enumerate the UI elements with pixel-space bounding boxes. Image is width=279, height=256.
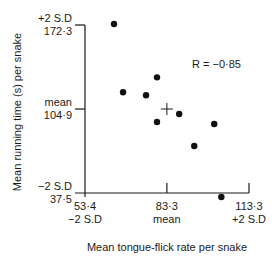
data-point: [218, 194, 224, 200]
y-tick-label: 172·3: [44, 25, 72, 37]
data-point: [154, 119, 160, 125]
data-point: [120, 89, 126, 95]
x-tick-label: 83·3: [156, 200, 178, 212]
x-tick-label: 113·3: [235, 200, 262, 212]
y-tick-sublabel: +2 S.D: [38, 12, 72, 24]
x-axis-title: Mean tongue-flick rate per snake: [87, 241, 247, 253]
y-tick-label: 37·5: [50, 193, 72, 205]
x-tick-sublabel: mean: [153, 213, 181, 225]
data-point: [191, 143, 197, 149]
y-tick-sublabel: mean: [44, 96, 72, 108]
y-axis-title: Mean running time (s) per snake: [11, 33, 23, 191]
x-tick-sublabel: +2 S.D: [232, 213, 266, 225]
data-point: [211, 121, 217, 127]
x-tick-label: 53·4: [74, 200, 96, 212]
correlation-annotation: R = −0·85: [192, 58, 241, 70]
data-point: [111, 21, 117, 27]
x-tick-sublabel: −2 S.D: [68, 213, 102, 225]
data-point: [143, 92, 149, 98]
data-point: [154, 74, 160, 80]
y-tick-sublabel: −2 S.D: [38, 180, 72, 192]
data-point: [176, 111, 182, 117]
y-tick-label: 104·9: [44, 109, 72, 121]
scatter-chart: +2 S.D172·3mean104·9−2 S.D37·5 53·4−2 S.…: [0, 0, 279, 256]
